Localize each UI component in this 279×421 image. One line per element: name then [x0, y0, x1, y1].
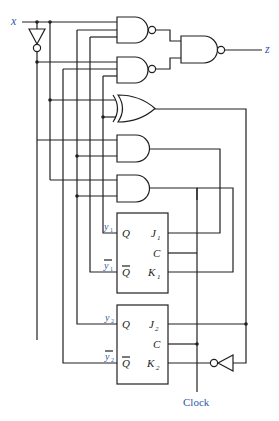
y2-label: y: [104, 312, 110, 323]
svg-text:K: K: [147, 266, 156, 278]
svg-text:1: 1: [157, 234, 161, 242]
xor-output-wire: [155, 109, 246, 363]
svg-text:Q: Q: [122, 318, 130, 330]
svg-text:2: 2: [111, 318, 114, 324]
input-x-label: x: [10, 14, 17, 28]
nand-gate-output: [181, 36, 225, 63]
and-gate-2: [117, 175, 150, 202]
y2-feedback: [77, 30, 117, 324]
svg-text:1: 1: [110, 227, 113, 233]
svg-text:1: 1: [110, 266, 113, 272]
sequential-circuit-diagram: x z: [0, 0, 279, 421]
svg-text:2: 2: [156, 364, 160, 372]
xor-gate: [113, 95, 155, 122]
and2-to-k1: [150, 188, 197, 200]
jk-flipflop-2: Q Q J 2 C K 2: [117, 305, 168, 384]
and-gate-1: [117, 135, 150, 162]
clock-label: Clock: [183, 396, 210, 408]
svg-text:2: 2: [155, 325, 159, 333]
output-z-label: z: [264, 42, 270, 56]
svg-text:C: C: [153, 338, 161, 350]
svg-text:K: K: [146, 357, 155, 369]
svg-text:Q: Q: [122, 266, 130, 278]
svg-text:1: 1: [157, 273, 161, 281]
svg-text:Q: Q: [122, 227, 130, 239]
jk-flipflop-1: Q Q J 1 C K 1: [117, 213, 168, 293]
k2-inverter: [210, 355, 233, 371]
nand-gate-1: [117, 17, 156, 43]
y2bar-label: y: [104, 351, 110, 362]
nand-gate-2: [117, 57, 156, 83]
y1bar-label: y: [103, 260, 109, 271]
svg-text:C: C: [153, 247, 161, 259]
y1-label: y: [103, 221, 109, 232]
svg-text:Q: Q: [122, 357, 130, 369]
x-inverter: [29, 22, 45, 340]
svg-text:2: 2: [111, 357, 114, 363]
k1-wire: [168, 188, 233, 272]
